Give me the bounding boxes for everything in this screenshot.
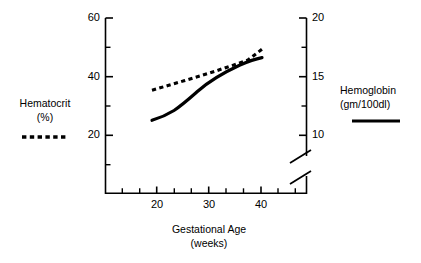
axis-break-slash-lower	[290, 171, 311, 184]
legend-hemoglobin: Hemoglobin (gm/100dl)	[340, 84, 420, 111]
series-hemoglobin-line	[152, 58, 262, 121]
legend-hemoglobin-units: (gm/100dl)	[340, 98, 420, 112]
x-axis-title-line2: (weeks)	[136, 237, 282, 251]
legend-hematocrit-units: (%)	[4, 111, 86, 125]
left-axis-label-20: 20	[78, 128, 100, 141]
chart-figure: 60 40 20 20 15 10 20 30 40 Gestational A…	[0, 0, 421, 263]
x-axis-label-20: 20	[141, 198, 173, 211]
x-axis-title-line1: Gestational Age	[136, 223, 282, 237]
legend-hematocrit-name: Hematocrit	[4, 97, 86, 111]
left-axis-label-60: 60	[78, 11, 100, 24]
axis-break-slash-upper	[290, 150, 311, 163]
right-axis-label-10: 10	[312, 128, 334, 141]
left-axis-label-40: 40	[78, 70, 100, 83]
legend-hematocrit: Hematocrit (%)	[4, 97, 86, 124]
x-axis-label-40: 40	[245, 198, 277, 211]
x-axis-title: Gestational Age (weeks)	[136, 223, 282, 250]
legend-hemoglobin-name: Hemoglobin	[340, 84, 420, 98]
right-axis-label-20: 20	[312, 11, 334, 24]
right-axis-label-15: 15	[312, 70, 334, 83]
x-axis-label-30: 30	[193, 198, 225, 211]
